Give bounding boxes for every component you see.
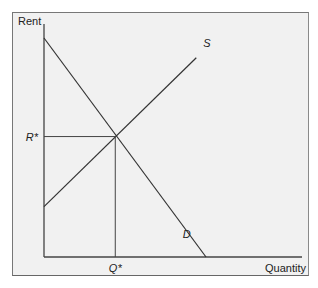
demand-label: D xyxy=(183,228,191,240)
demand-curve xyxy=(44,38,206,257)
x-axis-label: Quantity xyxy=(265,262,306,274)
supply-curve xyxy=(44,58,196,207)
supply-label: S xyxy=(203,37,211,49)
supply-demand-diagram: Rent Quantity R* Q* S D xyxy=(0,0,318,288)
y-axis-label: Rent xyxy=(18,15,41,27)
equilibrium-rent-label: R* xyxy=(26,131,39,143)
equilibrium-quantity-label: Q* xyxy=(109,262,123,274)
